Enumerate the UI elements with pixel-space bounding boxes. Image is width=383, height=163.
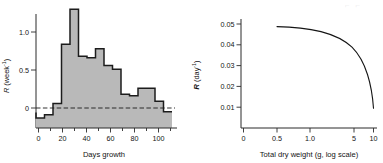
y-axis-ticks-left — [31, 32, 36, 108]
y-tick-label-0.02: 0.02 — [221, 82, 235, 91]
y-axis-label-unit: (week — [2, 66, 11, 88]
x-tick-label-100: 100 — [153, 134, 165, 143]
x-tick-label-10: 10 — [370, 134, 378, 143]
figure-container: ⌐ ⌐ R (week-1) 1.0 0.5 0 — [0, 0, 383, 163]
x-axis-title-right: Total dry weight (g, log scale) — [260, 150, 359, 159]
x-tick-label-60: 60 — [107, 134, 115, 143]
y-axis-label-left: R (week-1) — [1, 59, 11, 93]
histogram-bars-fill — [36, 9, 172, 128]
y-tick-label-0.05: 0.05 — [221, 20, 235, 29]
x-tick-label-40: 40 — [83, 134, 91, 143]
y-axis-label-right: R (day-1) — [191, 61, 201, 90]
respiration-curve — [277, 27, 374, 109]
x-tick-label-origin: 0 — [242, 134, 246, 143]
x-tick-label-0.5: 0.5 — [272, 134, 282, 143]
curve-svg: R (day-1) 0.05 0.04 0.03 0.02 0.01 — [191, 0, 383, 163]
y-tick-label-0.5: 0.5 — [19, 66, 29, 75]
y-tick-label-1: 1.0 — [19, 28, 29, 37]
x-axis-title-left: Days growth — [83, 150, 125, 159]
y-tick-label-0: 0 — [25, 104, 29, 113]
y-axis-label-close: ) — [2, 59, 11, 61]
panel-growth-rate-histogram: R (week-1) 1.0 0.5 0 — [0, 0, 191, 163]
x-axis-ticks-left — [39, 128, 171, 133]
x-tick-label-80: 80 — [131, 134, 139, 143]
y-axis-ticks-right — [237, 24, 242, 107]
y-axis-label-unit-right: (day — [192, 67, 201, 84]
histogram-svg: R (week-1) 1.0 0.5 0 — [0, 0, 191, 163]
y-tick-label-0.03: 0.03 — [221, 61, 235, 70]
svg-text:R (day-1): R (day-1) — [191, 61, 201, 90]
x-tick-label-1.0: 1.0 — [305, 134, 315, 143]
panel-respiration-curve: R (day-1) 0.05 0.04 0.03 0.02 0.01 — [191, 0, 383, 163]
x-tick-label-5: 5 — [352, 134, 356, 143]
svg-text:R (week-1): R (week-1) — [1, 59, 11, 93]
x-axis-ticks-right — [244, 128, 374, 133]
y-tick-label-0.01: 0.01 — [221, 103, 235, 112]
y-tick-label-0.04: 0.04 — [221, 40, 235, 49]
x-tick-label-20: 20 — [59, 134, 67, 143]
y-axis-label-close-right: ) — [192, 61, 201, 63]
x-tick-label-0: 0 — [37, 134, 41, 143]
